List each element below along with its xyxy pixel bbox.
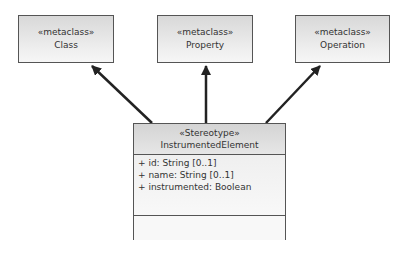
- metaclass-property[interactable]: «metaclass» Property: [157, 15, 253, 63]
- metaclass-stereotype-label: «metaclass»: [296, 26, 389, 39]
- metaclass-name: Class: [19, 39, 113, 52]
- metaclass-name: Property: [158, 39, 252, 52]
- stereotype-name: InstrumentedElement: [134, 139, 285, 151]
- metaclass-stereotype-label: «metaclass»: [19, 26, 113, 39]
- stereotype-keyword: «Stereotype»: [134, 127, 285, 139]
- metaclass-stereotype-label: «metaclass»: [158, 26, 252, 39]
- attribute-row: + id: String [0..1]: [138, 157, 285, 169]
- stereotype-instrumented-element[interactable]: «Stereotype» InstrumentedElement + id: S…: [133, 123, 286, 240]
- attributes-compartment: + id: String [0..1] + name: String [0..1…: [134, 155, 285, 216]
- extension-arrow-class: [92, 66, 152, 123]
- metaclass-name: Operation: [296, 39, 389, 52]
- operations-compartment: [134, 216, 285, 240]
- extension-arrow-operation: [266, 66, 320, 123]
- metaclass-operation[interactable]: «metaclass» Operation: [295, 15, 390, 63]
- metaclass-class[interactable]: «metaclass» Class: [18, 15, 114, 63]
- stereotype-header: «Stereotype» InstrumentedElement: [134, 124, 285, 155]
- attribute-row: + instrumented: Boolean: [138, 181, 285, 193]
- attribute-row: + name: String [0..1]: [138, 169, 285, 181]
